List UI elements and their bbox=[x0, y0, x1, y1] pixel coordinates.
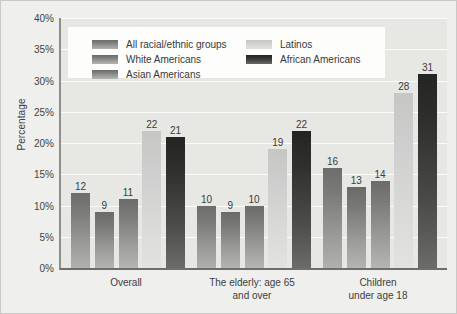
legend-swatch-icon bbox=[246, 55, 272, 64]
legend-item-label: African Americans bbox=[280, 54, 361, 65]
y-axis-tick-label: 15% bbox=[20, 169, 54, 180]
legend-item[interactable]: White Americans bbox=[92, 52, 227, 66]
legend-column-left: All racial/ethnic groupsWhite AmericansA… bbox=[92, 37, 227, 82]
legend-item[interactable]: Asian Americans bbox=[92, 67, 227, 81]
x-axis-category-label-line: Children bbox=[299, 276, 457, 289]
y-axis-tick-label: 35% bbox=[20, 44, 54, 55]
legend-swatch-icon bbox=[92, 70, 118, 79]
y-axis-tick-label: 0% bbox=[20, 263, 54, 274]
legend-item-label: Asian Americans bbox=[126, 69, 200, 80]
legend-item[interactable]: Latinos bbox=[246, 37, 361, 51]
bar[interactable] bbox=[418, 74, 437, 268]
legend-swatch-icon bbox=[246, 40, 272, 49]
chart-page: Percentage 40%35%30%25%20%15%10%5%0% 129… bbox=[0, 0, 457, 314]
bar-value-label: 21 bbox=[156, 125, 196, 136]
bar[interactable] bbox=[119, 199, 138, 268]
y-axis-tick-label: 30% bbox=[20, 75, 54, 86]
bar-slot: 28 bbox=[394, 18, 413, 268]
bar[interactable] bbox=[166, 137, 185, 268]
bar[interactable] bbox=[95, 212, 114, 268]
y-axis-tick-label: 5% bbox=[20, 231, 54, 242]
y-axis-tick-labels: 40%35%30%25%20%15%10%5%0% bbox=[20, 0, 54, 314]
legend-item-label: Latinos bbox=[280, 39, 312, 50]
x-axis-category-label: Childrenunder age 18 bbox=[299, 276, 457, 302]
bar[interactable] bbox=[142, 131, 161, 269]
bar[interactable] bbox=[347, 187, 366, 268]
bar-value-label: 22 bbox=[282, 119, 322, 130]
bar[interactable] bbox=[245, 206, 264, 269]
legend-item[interactable]: African Americans bbox=[246, 52, 361, 66]
bar[interactable] bbox=[292, 131, 311, 269]
bar-slot: 31 bbox=[418, 18, 437, 268]
y-axis-tick-label: 10% bbox=[20, 200, 54, 211]
bar[interactable] bbox=[268, 149, 287, 268]
chart-legend: All racial/ethnic groupsWhite AmericansA… bbox=[68, 27, 385, 78]
y-axis-tick-label: 40% bbox=[20, 13, 54, 24]
legend-column-right: LatinosAfrican Americans bbox=[246, 37, 361, 67]
bar[interactable] bbox=[197, 206, 216, 269]
bar-value-label: 31 bbox=[408, 62, 448, 73]
bar[interactable] bbox=[394, 93, 413, 268]
legend-item-label: White Americans bbox=[126, 54, 201, 65]
x-axis-category-label-line: under age 18 bbox=[299, 289, 457, 302]
legend-item-label: All racial/ethnic groups bbox=[126, 39, 227, 50]
legend-swatch-icon bbox=[92, 40, 118, 49]
y-axis-tick-label: 20% bbox=[20, 138, 54, 149]
y-axis-tick-label: 25% bbox=[20, 106, 54, 117]
legend-swatch-icon bbox=[92, 55, 118, 64]
bar[interactable] bbox=[371, 181, 390, 269]
legend-item[interactable]: All racial/ethnic groups bbox=[92, 37, 227, 51]
bar[interactable] bbox=[221, 212, 240, 268]
